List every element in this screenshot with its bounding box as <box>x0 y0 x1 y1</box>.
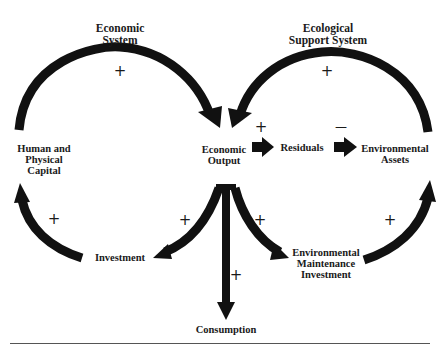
sign-output-to-investment: + <box>178 213 192 228</box>
investment-capital-arrow <box>22 200 82 258</box>
node-line: Assets <box>359 154 431 165</box>
title-line: System <box>90 34 150 46</box>
node-line: Investment <box>90 252 150 263</box>
ecological-support-system-title: Ecological Support System <box>283 22 373 46</box>
node-residuals: Residuals <box>277 142 327 153</box>
sign-economic-loop: + <box>113 64 127 79</box>
node-line: Investment <box>288 269 364 280</box>
sign-investment-to-capital: + <box>47 212 61 227</box>
ecological-loop-arrowhead-icon <box>228 108 252 128</box>
sign-output-to-env-maintenance: + <box>253 213 267 228</box>
fan-cap <box>216 184 236 190</box>
node-line: Human and <box>14 143 74 154</box>
title-line: Economic <box>90 22 150 34</box>
output-consumption-arrowhead-icon <box>217 302 235 320</box>
output-consumption-shaft <box>222 186 230 306</box>
env-maintenance-assets-arrow <box>364 198 428 260</box>
node-line: Output <box>196 155 252 166</box>
env-maintenance-assets-arrowhead-icon <box>419 180 436 202</box>
economic-loop-arrow <box>19 47 210 130</box>
title-line: Support System <box>283 34 373 46</box>
economic-loop-arrowhead-icon <box>198 106 222 128</box>
node-line: Maintenance <box>288 258 364 269</box>
investment-capital-arrowhead-icon <box>14 183 30 203</box>
node-line: Physical <box>14 154 74 165</box>
output-residuals-arrowhead-icon <box>262 137 274 157</box>
residuals-assets-arrowhead-icon <box>344 137 357 157</box>
node-line: Capital <box>14 165 74 176</box>
economic-system-title: Economic System <box>90 22 150 46</box>
sign-residuals-to-assets: — <box>334 120 348 135</box>
bottom-rule <box>10 343 430 344</box>
sign-output-to-residuals: + <box>254 120 268 135</box>
node-investment: Investment <box>90 252 150 263</box>
node-line: Economic <box>196 144 252 155</box>
sign-ecological-loop: + <box>320 64 334 79</box>
node-line: Environmental <box>359 143 431 154</box>
sign-output-to-consumption: + <box>229 268 243 283</box>
node-line: Consumption <box>186 324 266 335</box>
node-line: Environmental <box>288 247 364 258</box>
title-line: Ecological <box>283 22 373 34</box>
diagram-arrows <box>0 0 446 353</box>
node-environmental-assets: Environmental Assets <box>359 143 431 165</box>
sign-env-maintenance-to-assets: + <box>383 213 397 228</box>
node-line: Residuals <box>277 142 327 153</box>
node-economic-output: Economic Output <box>196 144 252 166</box>
node-consumption: Consumption <box>186 324 266 335</box>
output-investment-arrow <box>165 188 219 252</box>
node-human-physical-capital: Human and Physical Capital <box>14 143 74 176</box>
node-environmental-maintenance-investment: Environmental Maintenance Investment <box>288 247 364 280</box>
